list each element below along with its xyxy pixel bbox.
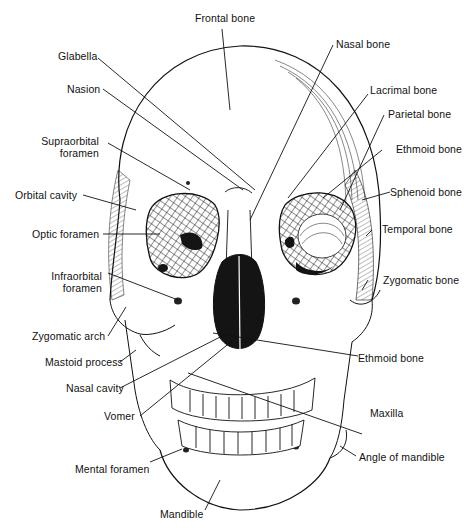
right-orbit-inner [298, 214, 346, 258]
label-nasal-cavity: Nasal cavity [66, 382, 124, 394]
label-nasal-bone: Nasal bone [336, 38, 390, 50]
right-infraorbital-foramen [292, 298, 300, 305]
label-mandible: Mandible [160, 508, 203, 520]
label-temporal-bone: Temporal bone [382, 223, 453, 235]
label-ethmoid-bone-lower: Ethmoid bone [358, 352, 424, 364]
label-frontal-bone: Frontal bone [190, 12, 260, 24]
label-zygomatic-bone: Zygomatic bone [383, 274, 459, 286]
label-parietal-bone: Parietal bone [388, 108, 451, 120]
label-ethmoid-bone-upper: Ethmoid bone [396, 143, 462, 155]
label-vomer: Vomer [104, 410, 135, 422]
skull-illustration [0, 0, 472, 528]
label-infraorbital-foramen: Infraorbital foramen [20, 270, 102, 294]
label-glabella: Glabella [58, 50, 97, 62]
teeth [170, 378, 315, 455]
label-mastoid-process: Mastoid process [45, 356, 123, 368]
label-angle-of-mandible: Angle of mandible [359, 451, 445, 463]
label-orbital-cavity: Orbital cavity [15, 189, 77, 201]
mandible-outline [160, 450, 330, 510]
label-nasion: Nasion [67, 83, 100, 95]
skull-diagram: Frontal bone Glabella Nasion Nasal bone … [0, 0, 472, 528]
label-sphenoid-bone: Sphenoid bone [390, 186, 462, 198]
label-lacrimal-bone: Lacrimal bone [370, 84, 437, 96]
label-optic-foramen: Optic foramen [32, 228, 99, 240]
label-supraorbital-foramen: Supraorbital foramen [20, 135, 99, 159]
label-zygomatic-arch: Zygomatic arch [32, 330, 105, 342]
label-maxilla: Maxilla [370, 407, 403, 419]
label-mental-foramen: Mental foramen [75, 463, 149, 475]
